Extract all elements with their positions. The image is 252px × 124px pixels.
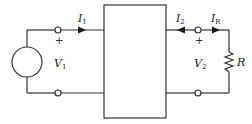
arrow-left-icon: [177, 27, 185, 34]
terminal-port1-top: [55, 27, 61, 33]
label-r: R: [236, 56, 245, 69]
polarity-plus-port2: +: [195, 35, 203, 46]
arrow-right-icon: [78, 27, 86, 34]
label-i1: I1: [77, 12, 87, 26]
terminal-port2-bottom: [195, 90, 201, 96]
terminal-port1-bottom: [55, 90, 61, 96]
resistor-icon: [225, 52, 233, 72]
label-i2: I2: [175, 12, 185, 26]
label-v2: V2: [194, 57, 206, 71]
label-v1: V1: [54, 57, 66, 71]
circuit-diagram: I1 + V1 I2 IR + V2 R: [0, 0, 252, 124]
arrow-right-icon: [212, 27, 220, 34]
polarity-plus-port1: +: [55, 35, 63, 46]
label-ir: IR: [210, 12, 221, 26]
voltage-source-icon: [12, 47, 42, 77]
two-port-network-box: [104, 5, 166, 118]
terminal-port2-top: [195, 27, 201, 33]
